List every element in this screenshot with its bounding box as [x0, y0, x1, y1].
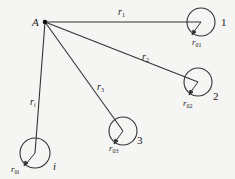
point-A-label: A: [31, 16, 39, 28]
diagram-canvas: A r1 r2 r3 ri 1 2 3 i r01 r02 r03 r0i: [0, 0, 235, 179]
label-r1: r1: [118, 6, 125, 18]
circle-3-number: 3: [137, 134, 143, 146]
label-r3: r3: [97, 81, 104, 93]
label-r02: r02: [183, 98, 193, 109]
line-r3: [45, 22, 123, 131]
label-r2: r2: [142, 51, 149, 63]
label-ri: ri: [30, 96, 36, 108]
circle-i-number: i: [53, 160, 56, 172]
diagram-svg: A r1 r2 r3 ri 1 2 3 i r01 r02 r03 r0i: [0, 0, 235, 179]
label-r01: r01: [192, 37, 202, 48]
circle-2-number: 2: [213, 90, 219, 102]
point-A-dot: [43, 20, 48, 25]
line-ri: [35, 22, 45, 153]
circle-1-number: 1: [221, 16, 227, 28]
line-r2: [45, 22, 198, 82]
label-r0i: r0i: [11, 164, 20, 175]
